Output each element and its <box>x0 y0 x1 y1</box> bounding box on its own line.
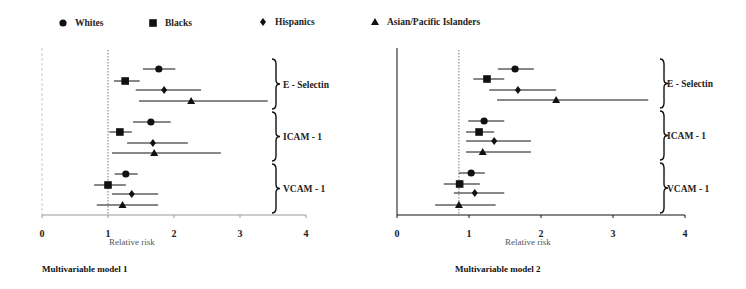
square-point-icon <box>456 180 464 188</box>
legend: WhitesBlacksHispanicsAsian/Pacific Islan… <box>59 17 480 28</box>
circle-point-icon <box>122 170 129 177</box>
group-label: ICAM - 1 <box>283 132 322 142</box>
ci-row <box>115 170 138 177</box>
ci-row <box>489 86 556 94</box>
triangle-legend-icon <box>371 18 379 25</box>
circle-point-icon <box>468 169 475 176</box>
x-tick-label: 1 <box>467 228 472 239</box>
ci-row <box>498 65 534 72</box>
ci-row <box>109 128 131 136</box>
ci-row <box>112 149 221 156</box>
diamond-point-icon <box>491 137 497 145</box>
legend-label: Whites <box>75 18 104 28</box>
legend-item: Hispanics <box>260 17 315 27</box>
circle-legend-icon <box>59 19 66 26</box>
square-point-icon <box>475 128 483 136</box>
ci-row <box>114 77 140 85</box>
group-brace-icon <box>272 59 280 109</box>
square-point-icon <box>116 128 124 136</box>
legend-label: Blacks <box>165 18 192 28</box>
ci-row <box>112 190 158 198</box>
x-tick-label: 3 <box>611 228 616 239</box>
model-title: Multivariable model 2 <box>455 264 541 274</box>
x-tick-label: 2 <box>172 228 177 239</box>
group-label: ICAM - 1 <box>667 131 706 141</box>
ci-row <box>466 137 531 145</box>
ci-row <box>435 201 495 208</box>
panel-model-2: 01234E - SelectinICAM - 1VCAM - 1Relativ… <box>395 48 714 274</box>
diamond-point-icon <box>129 190 135 198</box>
group-label: E - Selectin <box>283 80 330 90</box>
x-tick-label: 0 <box>40 228 45 239</box>
x-tick-label: 0 <box>395 228 400 239</box>
x-axis-label: Relative risk <box>109 237 155 247</box>
ci-row <box>136 86 201 94</box>
ci-row <box>139 97 268 104</box>
legend-label: Asian/Pacific Islanders <box>387 17 480 27</box>
ci-row <box>497 96 648 103</box>
circle-point-icon <box>511 65 518 72</box>
diamond-point-icon <box>150 139 156 147</box>
circle-point-icon <box>155 65 162 72</box>
model-title: Multivariable model 1 <box>42 264 128 274</box>
square-point-icon <box>104 181 112 189</box>
ci-row <box>466 128 494 136</box>
square-point-icon <box>483 75 491 83</box>
x-axis-label: Relative risk <box>505 237 551 247</box>
ci-row <box>459 169 485 176</box>
diamond-point-icon <box>472 189 478 197</box>
legend-label: Hispanics <box>275 17 315 27</box>
x-tick-label: 4 <box>304 228 309 239</box>
x-tick-label: 4 <box>683 228 688 239</box>
forest-plot-figure: WhitesBlacksHispanicsAsian/Pacific Islan… <box>0 0 746 289</box>
ci-row <box>466 148 531 155</box>
circle-point-icon <box>481 117 488 124</box>
ci-row <box>127 139 188 147</box>
ci-row <box>94 181 126 189</box>
diamond-point-icon <box>515 86 521 94</box>
ci-row <box>468 117 504 124</box>
ci-row <box>143 65 175 72</box>
group-brace-icon <box>272 164 280 213</box>
ci-row <box>97 201 158 208</box>
group-label: VCAM - 1 <box>667 184 709 194</box>
square-point-icon <box>121 77 129 85</box>
ci-row <box>444 180 480 188</box>
square-legend-icon <box>149 19 157 27</box>
panel-model-1: 01234E - SelectinICAM - 1VCAM - 1Relativ… <box>40 48 330 274</box>
ci-row <box>454 189 504 197</box>
diamond-point-icon <box>161 86 167 94</box>
circle-point-icon <box>147 118 154 125</box>
ci-row <box>133 118 171 125</box>
ci-row <box>473 75 504 83</box>
x-tick-label: 3 <box>238 228 243 239</box>
group-brace-icon <box>272 112 280 161</box>
legend-item: Blacks <box>149 18 192 28</box>
group-label: E - Selectin <box>667 79 714 89</box>
legend-item: Asian/Pacific Islanders <box>371 17 480 27</box>
group-label: VCAM - 1 <box>283 184 325 194</box>
legend-item: Whites <box>59 18 103 28</box>
diamond-legend-icon <box>260 18 266 26</box>
